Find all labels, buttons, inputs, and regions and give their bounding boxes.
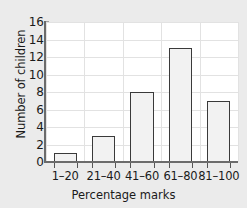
y-tick-label: 0	[20, 156, 44, 168]
x-tick-mark	[130, 163, 131, 168]
x-tick-label: 41–60	[125, 169, 159, 183]
bar	[207, 101, 230, 162]
x-axis-tick-marks	[46, 163, 238, 168]
histogram-figure: Number of children 0246810121416 1–2021–…	[0, 0, 247, 208]
bar	[169, 48, 192, 162]
x-tick-mark	[92, 163, 93, 168]
x-tick-mark	[169, 163, 170, 168]
gridline-vertical	[46, 22, 47, 162]
x-tick-label: 61–80	[163, 169, 197, 183]
bar	[130, 92, 153, 162]
gridline-vertical	[200, 22, 201, 162]
x-tick-mark	[154, 163, 155, 168]
y-tick-label: 2	[20, 139, 44, 151]
gridline-vertical	[161, 22, 162, 162]
gridline-horizontal	[46, 57, 238, 58]
x-axis-title: Percentage marks	[0, 188, 247, 202]
y-tick-label: 16	[20, 16, 44, 28]
x-tick-label: 81–100	[198, 169, 239, 183]
gridline-vertical	[238, 22, 239, 162]
x-tick-mark	[54, 163, 55, 168]
gridline-horizontal	[46, 75, 238, 76]
x-tick-label: 1–20	[52, 169, 79, 183]
gridline-vertical	[84, 22, 85, 162]
gridline-horizontal	[46, 22, 238, 23]
x-tick-mark	[207, 163, 208, 168]
y-tick-label: 14	[20, 34, 44, 46]
y-tick-label: 12	[20, 51, 44, 63]
y-tick-label: 4	[20, 121, 44, 133]
bar	[92, 136, 115, 162]
gridline-vertical	[123, 22, 124, 162]
x-axis-tick-labels: 1–2021–4041–6061–8081–100	[46, 169, 238, 185]
x-tick-mark	[192, 163, 193, 168]
y-tick-label: 8	[20, 86, 44, 98]
y-axis-tick-labels: 0246810121416	[20, 22, 44, 162]
y-tick-label: 10	[20, 69, 44, 81]
y-tick-label: 6	[20, 104, 44, 116]
plot-area	[46, 22, 238, 162]
x-tick-mark	[230, 163, 231, 168]
gridline-horizontal	[46, 40, 238, 41]
x-tick-mark	[115, 163, 116, 168]
x-tick-mark	[77, 163, 78, 168]
x-tick-label: 21–40	[87, 169, 121, 183]
clipped-title-remnant	[118, 0, 178, 3]
